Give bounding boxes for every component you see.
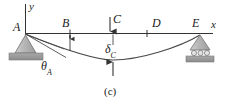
axis-label-y: y <box>29 1 34 12</box>
roller-wheel-2 <box>198 50 203 55</box>
deflection-label-delta-c: δC <box>105 43 116 58</box>
slope-subscript: A <box>47 68 52 77</box>
point-label-e: E <box>192 17 199 29</box>
roller-wheel-1 <box>191 50 196 55</box>
point-label-b: B <box>62 17 69 29</box>
roller-support-triangle-e <box>190 35 210 50</box>
axis-label-x: x <box>211 19 216 30</box>
ground-block-e <box>186 56 214 62</box>
beam-deflection-figure: A B C D E y x δC θA (c) <box>0 0 225 105</box>
deflection-subscript: C <box>111 51 116 60</box>
point-label-c: C <box>113 13 121 25</box>
slope-label-theta-a: θA <box>41 60 52 75</box>
point-label-a: A <box>13 21 20 33</box>
figure-caption: (c) <box>104 85 116 97</box>
roller-wheel-3 <box>204 50 209 55</box>
ground-block-a <box>9 53 43 60</box>
point-label-d: D <box>152 17 161 29</box>
deflection-symbol: δ <box>105 42 111 56</box>
